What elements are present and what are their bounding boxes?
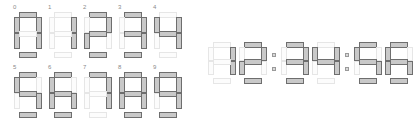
segment-d xyxy=(89,52,107,58)
clock-colon-separator xyxy=(270,42,280,84)
digit-cell-label: 5 xyxy=(13,64,16,70)
seven-segment-digit xyxy=(154,12,182,58)
digit-cell-label: 1 xyxy=(48,4,51,10)
segment-d xyxy=(286,78,304,84)
seven-segment-clock xyxy=(208,42,415,88)
clock-colon-separator xyxy=(343,42,353,84)
segment-a xyxy=(359,42,377,48)
segment-g xyxy=(359,59,377,65)
segment-g xyxy=(159,31,177,37)
digit-cell-9: 9 xyxy=(152,64,186,124)
clock-digit xyxy=(385,42,413,84)
clock-digit xyxy=(312,42,340,84)
digit-cell-label: 4 xyxy=(153,4,156,10)
seven-segment-digit xyxy=(154,72,182,118)
clock-digit xyxy=(239,42,267,84)
colon-dot-bottom xyxy=(272,67,276,71)
segment-d xyxy=(159,112,177,118)
segment-g xyxy=(19,31,37,37)
segment-d xyxy=(124,52,142,58)
segment-d xyxy=(19,112,37,118)
segment-a xyxy=(159,12,177,18)
segment-d xyxy=(244,78,262,84)
segment-a xyxy=(124,12,142,18)
segment-d xyxy=(390,78,408,84)
segment-a xyxy=(286,42,304,48)
segment-g xyxy=(54,91,72,97)
segment-g xyxy=(213,59,231,65)
digit-cell-label: 7 xyxy=(83,64,86,70)
segment-g xyxy=(19,91,37,97)
digit-cell-0: 0 xyxy=(12,4,46,64)
clock-digit xyxy=(354,42,382,84)
digit-row-bottom: 56789 xyxy=(12,64,198,124)
segment-g xyxy=(390,59,408,65)
segment-a xyxy=(244,42,262,48)
colon-dot-bottom xyxy=(345,67,349,71)
digit-row-top: 01234 xyxy=(12,4,198,64)
segment-g xyxy=(244,59,262,65)
seven-segment-digit xyxy=(84,72,112,118)
segment-g xyxy=(124,31,142,37)
digit-cell-label: 8 xyxy=(118,64,121,70)
colon-dot-top xyxy=(345,53,349,57)
seven-segment-digit xyxy=(14,72,42,118)
segment-a xyxy=(213,42,231,48)
digit-cell-label: 2 xyxy=(83,4,86,10)
segment-d xyxy=(213,78,231,84)
segment-g xyxy=(159,91,177,97)
segment-a xyxy=(89,72,107,78)
seven-segment-digit xyxy=(119,72,147,118)
digit-cell-2: 2 xyxy=(82,4,116,64)
digit-cell-1: 1 xyxy=(47,4,81,64)
clock-digit xyxy=(281,42,309,84)
segment-a xyxy=(19,12,37,18)
seven-segment-digit xyxy=(49,12,77,58)
digit-cell-4: 4 xyxy=(152,4,186,64)
segment-a xyxy=(54,12,72,18)
digit-cell-label: 3 xyxy=(118,4,121,10)
digit-cell-5: 5 xyxy=(12,64,46,124)
segment-d xyxy=(89,112,107,118)
segment-a xyxy=(317,42,335,48)
segment-d xyxy=(359,78,377,84)
segment-g xyxy=(89,31,107,37)
segment-d xyxy=(124,112,142,118)
segment-g xyxy=(89,91,107,97)
segment-d xyxy=(317,78,335,84)
digit-cell-label: 0 xyxy=(13,4,16,10)
segment-a xyxy=(89,12,107,18)
seven-segment-demo-page: 01234 56789 xyxy=(0,0,415,130)
colon-dot-top xyxy=(272,53,276,57)
seven-segment-digit xyxy=(119,12,147,58)
seven-segment-digit xyxy=(14,12,42,58)
digit-cell-3: 3 xyxy=(117,4,151,64)
segment-g xyxy=(317,59,335,65)
segment-a xyxy=(390,42,408,48)
segment-g xyxy=(54,31,72,37)
clock-digit xyxy=(208,42,236,84)
segment-d xyxy=(19,52,37,58)
seven-segment-digit xyxy=(84,12,112,58)
digit-cell-label: 6 xyxy=(48,64,51,70)
segment-g xyxy=(124,91,142,97)
segment-a xyxy=(54,72,72,78)
digit-cell-8: 8 xyxy=(117,64,151,124)
segment-a xyxy=(124,72,142,78)
segment-d xyxy=(54,52,72,58)
segment-g xyxy=(286,59,304,65)
segment-d xyxy=(159,52,177,58)
seven-segment-digit xyxy=(49,72,77,118)
digit-cell-6: 6 xyxy=(47,64,81,124)
segment-a xyxy=(159,72,177,78)
segment-a xyxy=(19,72,37,78)
digit-cell-7: 7 xyxy=(82,64,116,124)
digit-cell-label: 9 xyxy=(153,64,156,70)
segment-d xyxy=(54,112,72,118)
digit-reference-grid: 01234 56789 xyxy=(12,4,198,126)
